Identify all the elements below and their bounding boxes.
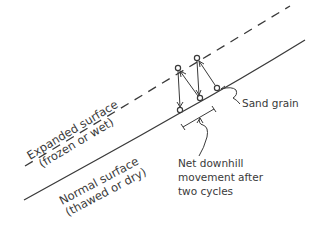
net-movement-label-line2: movement after [178, 171, 264, 183]
sand-grain-icon [197, 95, 202, 100]
net-movement-pointer-icon [199, 118, 208, 156]
sand-grain-pointer-icon [221, 88, 240, 104]
sand-grain-icon [214, 85, 219, 90]
sand-grain-icon [194, 55, 199, 60]
grain-path-arrows [177, 61, 215, 107]
sand-grain-icon [175, 65, 180, 70]
sand-grain-label: Sand grain [242, 97, 299, 109]
net-movement-label-line3: two cycles [178, 185, 233, 197]
net-movement-label-line1: Net downhill [178, 157, 244, 169]
soil-creep-diagram: Expanded surface (frozen or wet) Normal … [0, 0, 320, 231]
sand-grain-icon [177, 107, 182, 112]
